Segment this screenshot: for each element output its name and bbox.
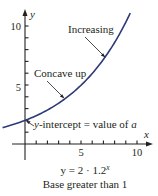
annotation-concave-up: Concave up	[34, 67, 87, 79]
concave-up-arrow-icon	[47, 81, 63, 97]
intercept-text: -intercept = value of	[39, 118, 131, 130]
equation-main: y = 2 · 1.2	[61, 164, 107, 176]
x-axis-label: x	[143, 128, 149, 140]
annotation-y-intercept: y-intercept = value of a	[33, 118, 137, 130]
exponential-growth-chart: y x 10 5 5 10 Increasing Concave up y-in…	[0, 0, 158, 196]
caption-base-greater-than-1: Base greater than 1	[43, 178, 128, 190]
increasing-arrow-icon	[85, 37, 104, 56]
y-tick-label-5: 5	[16, 82, 21, 93]
intercept-a: a	[131, 118, 137, 130]
y-tick-label-10: 10	[11, 21, 22, 32]
equation-label: y = 2 · 1.2x	[61, 163, 111, 176]
equation-exponent: x	[105, 163, 110, 172]
x-axis	[12, 142, 153, 147]
y-axis-label: y	[29, 8, 35, 20]
x-tick-label-10: 10	[132, 147, 143, 158]
annotation-increasing: Increasing	[68, 23, 114, 35]
x-tick-label-5: 5	[78, 147, 83, 158]
